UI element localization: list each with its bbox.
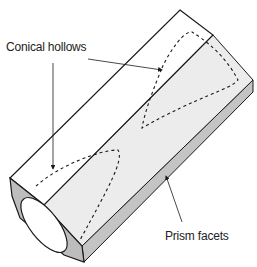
prism-facets-leader xyxy=(166,176,182,222)
conical-hollows-label: Conical hollows xyxy=(6,40,86,54)
prism-facets-label: Prism facets xyxy=(165,229,229,243)
